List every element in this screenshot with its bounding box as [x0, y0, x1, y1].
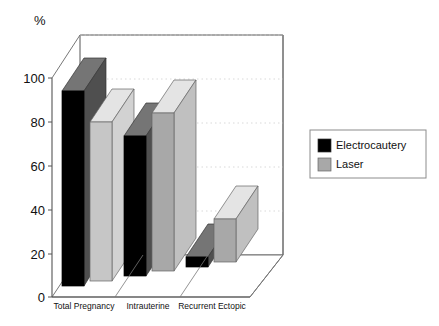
chart-figure: 100 80 60 40 20 0 %	[0, 0, 439, 326]
bar-front-face	[62, 91, 84, 286]
legend-item-laser[interactable]: Laser	[318, 158, 364, 171]
legend-label-electrocautery: Electrocautery	[336, 139, 407, 151]
bar-intrauterine-laser	[152, 80, 196, 271]
category-label-intrauterine: Intrauterine	[127, 301, 170, 311]
bar-front-face	[214, 219, 236, 262]
y-axis-ticks: 100 80 60 40 20 0	[23, 71, 52, 305]
ytick-label-0: 0	[38, 290, 45, 305]
category-label-total-pregnancy: Total Pregnancy	[54, 301, 116, 311]
y-axis-unit-label: %	[34, 13, 46, 28]
ytick-label-20: 20	[31, 247, 45, 262]
legend-swatch-laser	[318, 158, 331, 171]
legend-swatch-electrocautery	[318, 139, 331, 152]
ytick-label-80: 80	[31, 115, 45, 130]
ytick-label-100: 100	[23, 71, 45, 86]
ytick-label-40: 40	[31, 203, 45, 218]
legend: Electrocautery Laser	[310, 130, 426, 178]
legend-item-electrocautery[interactable]: Electrocautery	[318, 139, 407, 152]
bar-front-face	[90, 122, 112, 281]
category-label-recurrent-ectopic: Recurrent Ectopic	[178, 301, 246, 311]
legend-label-laser: Laser	[336, 158, 364, 170]
bar-front-face	[152, 113, 174, 271]
chart-canvas: 100 80 60 40 20 0 %	[0, 0, 439, 326]
ytick-label-60: 60	[31, 159, 45, 174]
bar-side-face	[174, 80, 196, 271]
bar-front-face	[186, 257, 208, 267]
